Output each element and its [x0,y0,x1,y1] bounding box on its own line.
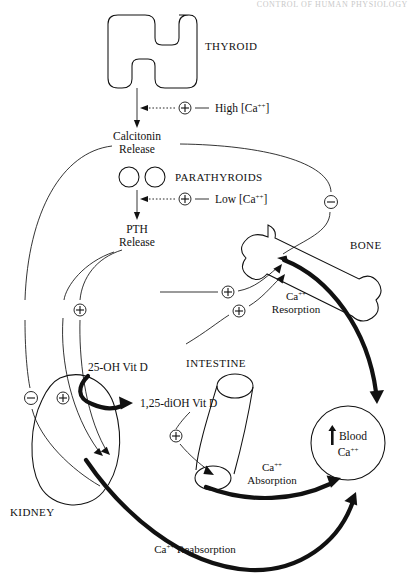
parathyroid-glands [119,167,165,187]
pth-release-line2: Release [119,236,155,248]
bone-to-blood-arrow [284,260,384,404]
blood-label-line1: Blood [339,430,367,442]
vitd-precursor-label: 25-OH Vit D [88,361,148,373]
kidney-label: KIDNEY [10,506,55,518]
low-ca-stimulus-line [140,196,209,202]
sign-node-calcitonin-kidney-minus [25,392,38,405]
absorption-label-line1: Ca++ [262,461,282,473]
high-ca-label: High [Ca++] [215,102,269,115]
sign-node-pth-kidney-plus-low [57,392,69,404]
pth-to-kidney-line-secondary [63,252,114,456]
pth-release-line1: PTH [126,223,148,235]
sign-node-low-ca-plus [179,193,191,205]
parathyroid-to-pth-arrow [134,190,140,220]
page-header: CONTROL OF HUMAN PHYSIOLOGY [257,0,408,9]
vitd-conversion-arrow [80,376,133,409]
sign-node-high-ca-plus [179,102,191,114]
absorption-label-line2: Absorption [247,474,297,486]
diagram-canvas: CONTROL OF HUMAN PHYSIOLOGY THYROID High… [0,0,412,584]
resorption-label-line2: Resorption [272,303,321,315]
pth-stimulates-bone-upper [160,264,282,292]
blood-label-line2: Ca++ [338,446,359,458]
thyroid-label: THYROID [205,40,257,52]
high-ca-stimulus-line [140,105,209,111]
bone-label: BONE [350,239,382,251]
blood-calcium-node [311,406,385,480]
intestine-label: INTESTINE [186,357,246,369]
low-ca-label: Low [Ca++] [215,193,267,205]
sign-node-vitd-intestine-plus [170,430,182,442]
thyroid-organ [108,15,197,88]
reabsorption-label: Ca++ Reabsorption [154,543,236,555]
parathyroids-label: PARATHYROIDS [175,171,263,183]
calcium-homeostasis-diagram: CONTROL OF HUMAN PHYSIOLOGY THYROID High… [0,0,412,584]
sign-node-pth-kidney-plus [74,304,86,316]
sign-node-pth-bone-plus-upper [222,286,234,298]
calcitonin-release-line1: Calcitonin [113,130,161,142]
calcitonin-release-line2: Release [119,143,155,155]
thyroid-to-calcitonin-arrow [134,88,140,128]
resorption-label-line1: Ca++ [286,290,306,302]
sign-node-pth-bone-plus-lower [233,305,245,317]
vitd-to-intestine-line [176,412,214,475]
sign-node-calcitonin-bone-minus [325,196,338,209]
pth-to-kidney-line [80,250,122,455]
intestine-organ [195,374,253,490]
vitd-active-label: 1,25-diOH Vit D [140,397,217,410]
